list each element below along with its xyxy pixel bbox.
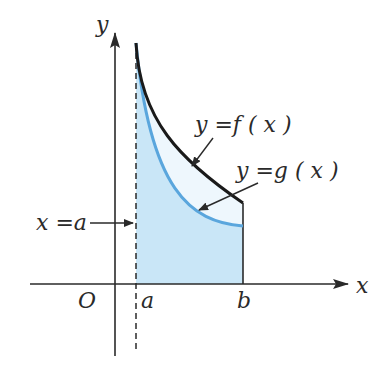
area-between-curves-diagram: y x O a b x =a y =f ( x ) y =g ( x ) [0, 0, 390, 369]
g-curve-label: y =g ( x ) [235, 158, 339, 183]
f-curve-label: y =f ( x ) [194, 112, 292, 137]
x-axis-label: x [356, 273, 369, 298]
b-label: b [237, 288, 251, 313]
a-label: a [141, 288, 154, 313]
y-axis-label: y [95, 12, 109, 37]
x-equals-a-label: x =a [36, 210, 87, 235]
f-label-arrow [192, 138, 213, 166]
origin-label: O [78, 288, 96, 313]
